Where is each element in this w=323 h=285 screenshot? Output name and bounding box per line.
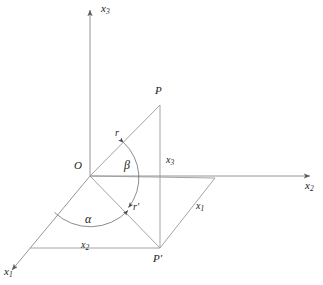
angle-alpha-label: α (85, 213, 91, 225)
segment-height-x3-label: x3 (166, 155, 174, 166)
axis-x1-line (12, 176, 90, 270)
spherical-coordinates-figure: x3 x2 x1 O P P′ r r′ x3 x1 x2 β α (0, 0, 323, 285)
angle-arc-beta (124, 143, 139, 208)
segment-r-prime-label: r′ (133, 202, 139, 212)
axis-x3-label: x3 (101, 3, 110, 15)
point-p-prime-label: P′ (153, 253, 162, 264)
figure-canvas (0, 0, 323, 285)
point-origin-label: O (74, 160, 82, 171)
segment-r-prime (90, 176, 160, 248)
segment-r-label: r (115, 128, 119, 138)
axis-x1-label: x1 (4, 266, 13, 278)
segment-edge-x1-label: x1 (196, 201, 204, 212)
base-edge-x1-right (160, 178, 215, 248)
point-p-label: P (155, 85, 162, 96)
axis-x2-label: x2 (305, 180, 314, 192)
segment-edge-x2-label: x2 (81, 240, 89, 251)
angle-beta-label: β (124, 159, 130, 171)
